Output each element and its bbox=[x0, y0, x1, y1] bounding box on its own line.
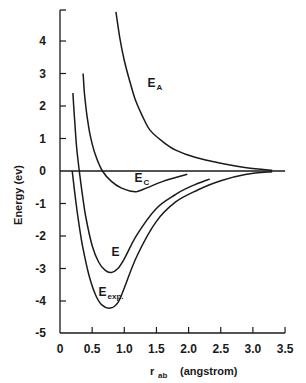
x-tick-label: 1.5 bbox=[148, 342, 165, 356]
label-sub: exp. bbox=[108, 292, 124, 301]
y-tick-label: 4 bbox=[39, 34, 46, 48]
y-axis-title: Energy (ev) bbox=[12, 165, 24, 225]
label-sub: A bbox=[156, 83, 162, 92]
curve-labels: EAECEEexp. bbox=[99, 76, 163, 302]
label-e-a: EA bbox=[147, 76, 162, 92]
label-e: E bbox=[111, 245, 119, 259]
ticks: 00.51.01.52.02.53.03.543210-1-2-3-4-5 bbox=[35, 34, 293, 356]
x-tick-label: 1.0 bbox=[116, 342, 133, 356]
y-tick-label: -1 bbox=[35, 197, 46, 211]
y-tick-label: 1 bbox=[39, 132, 46, 146]
label-e-c: EC bbox=[135, 171, 150, 187]
curves bbox=[72, 12, 272, 308]
label-main: E bbox=[135, 171, 143, 185]
curve-e-a bbox=[116, 12, 272, 171]
energy-chart: 00.51.01.52.02.53.03.543210-1-2-3-4-5 EA… bbox=[0, 0, 306, 383]
label-main: E bbox=[147, 76, 155, 90]
x-tick-label: 2.0 bbox=[180, 342, 197, 356]
y-tick-label: -5 bbox=[35, 326, 46, 340]
x-tick-label: 0 bbox=[57, 342, 64, 356]
y-tick-label: -2 bbox=[35, 229, 46, 243]
x-tick-label: 3.0 bbox=[245, 342, 262, 356]
y-tick-label: 0 bbox=[39, 164, 46, 178]
x-tick-label: 3.5 bbox=[277, 342, 294, 356]
x-axis-title-main: r bbox=[150, 365, 155, 377]
x-tick-label: 2.5 bbox=[212, 342, 229, 356]
y-tick-label: 3 bbox=[39, 67, 46, 81]
x-tick-label: 0.5 bbox=[84, 342, 101, 356]
x-axis-title-sub: ab bbox=[158, 371, 167, 380]
y-tick-label: 2 bbox=[39, 99, 46, 113]
label-e-exp: Eexp. bbox=[99, 285, 124, 301]
label-sub: C bbox=[144, 178, 150, 187]
label-main: E bbox=[99, 285, 107, 299]
axes bbox=[60, 10, 285, 333]
x-axis-title: r ab (angstrom) bbox=[150, 365, 238, 380]
x-axis-title-unit: (angstrom) bbox=[180, 365, 238, 377]
y-tick-label: -3 bbox=[35, 262, 46, 276]
label-main: E bbox=[111, 245, 119, 259]
y-tick-label: -4 bbox=[35, 294, 46, 308]
